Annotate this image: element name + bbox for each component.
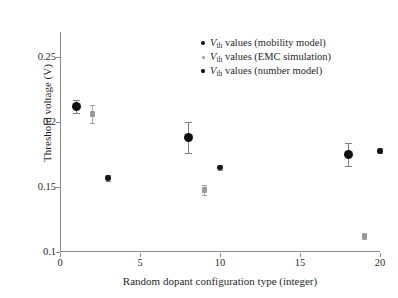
data-marker bbox=[72, 102, 81, 111]
legend-subscript: th bbox=[216, 55, 222, 64]
x-tick-label: 10 bbox=[215, 258, 226, 269]
legend-subscript: th bbox=[216, 69, 222, 78]
data-marker bbox=[90, 111, 95, 117]
data-marker bbox=[202, 187, 207, 193]
data-marker bbox=[377, 148, 383, 154]
x-tick-label: 15 bbox=[295, 258, 306, 269]
data-marker bbox=[344, 150, 353, 159]
y-axis-line bbox=[60, 32, 61, 252]
data-marker bbox=[217, 165, 223, 171]
y-axis-title: Threshold voltage (V) bbox=[41, 3, 53, 223]
x-axis-line bbox=[60, 251, 380, 252]
error-bar-cap bbox=[362, 239, 367, 240]
legend-entry: Vth values (mobility model) bbox=[196, 36, 331, 50]
legend-entry: Vth values (number model) bbox=[196, 64, 331, 78]
error-bar-cap bbox=[73, 113, 80, 114]
legend-subscript: th bbox=[216, 41, 222, 50]
error-bar-cap bbox=[90, 105, 95, 106]
y-tick-mark bbox=[56, 122, 60, 123]
legend-text: values (EMC simulation) bbox=[222, 51, 331, 62]
legend-marker-dot-icon bbox=[201, 41, 206, 46]
legend-label: Vth values (EMC simulation) bbox=[210, 52, 331, 63]
scatter-plot-figure: 0.10.150.20.25 05101520 Random dopant co… bbox=[0, 0, 398, 298]
y-tick-label: 0.1 bbox=[43, 247, 56, 258]
error-bar-cap bbox=[218, 170, 223, 171]
error-bar-cap bbox=[73, 100, 80, 101]
error-bar-cap bbox=[202, 185, 207, 186]
error-bar-cap bbox=[202, 195, 207, 196]
x-tick-label: 20 bbox=[375, 258, 386, 269]
legend-label: Vth values (mobility model) bbox=[210, 38, 326, 49]
error-bar-cap bbox=[345, 143, 352, 144]
legend-marker-cell bbox=[196, 56, 210, 59]
legend-marker-dot-icon bbox=[202, 56, 205, 59]
data-marker bbox=[105, 175, 111, 181]
y-tick-mark bbox=[56, 187, 60, 188]
error-bar-cap bbox=[90, 123, 95, 124]
error-bar-cap bbox=[185, 122, 192, 123]
error-bar-cap bbox=[185, 153, 192, 154]
legend-text: values (number model) bbox=[222, 65, 322, 76]
legend-marker-cell bbox=[196, 41, 210, 46]
data-marker bbox=[184, 133, 193, 142]
x-axis-title: Random dopant configuration type (intege… bbox=[60, 275, 380, 287]
y-tick-mark bbox=[56, 57, 60, 58]
x-tick-label: 0 bbox=[57, 258, 62, 269]
legend: Vth values (mobility model)Vth values (E… bbox=[196, 36, 331, 78]
legend-marker-cell bbox=[196, 69, 210, 72]
data-marker bbox=[362, 233, 367, 239]
legend-text: values (mobility model) bbox=[222, 37, 326, 48]
x-tick-label: 5 bbox=[137, 258, 142, 269]
legend-marker-dot-icon bbox=[201, 69, 204, 72]
legend-entry: Vth values (EMC simulation) bbox=[196, 50, 331, 64]
error-bar-cap bbox=[345, 166, 352, 167]
legend-label: Vth values (number model) bbox=[210, 66, 322, 77]
